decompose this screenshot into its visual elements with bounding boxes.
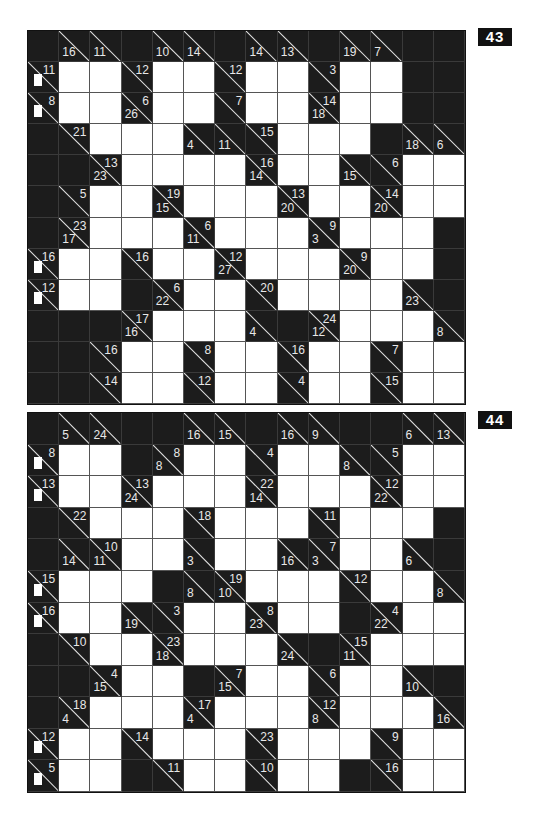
entry-cell[interactable] [90, 280, 121, 311]
entry-cell[interactable] [309, 373, 340, 404]
entry-cell[interactable] [340, 476, 371, 508]
entry-cell[interactable] [278, 155, 309, 186]
entry-cell[interactable] [215, 186, 246, 217]
entry-cell[interactable] [403, 760, 434, 792]
entry-cell[interactable] [59, 603, 90, 635]
entry-cell[interactable] [371, 280, 402, 311]
entry-cell[interactable] [90, 760, 121, 792]
entry-cell[interactable] [59, 476, 90, 508]
entry-cell[interactable] [122, 539, 153, 571]
entry-cell[interactable] [403, 445, 434, 477]
entry-cell[interactable] [278, 62, 309, 93]
entry-cell[interactable] [434, 186, 465, 217]
entry-cell[interactable] [153, 62, 184, 93]
entry-cell[interactable] [246, 218, 277, 249]
entry-cell[interactable] [90, 62, 121, 93]
entry-cell[interactable] [122, 697, 153, 729]
entry-cell[interactable] [246, 508, 277, 540]
entry-cell[interactable] [403, 476, 434, 508]
entry-cell[interactable] [215, 760, 246, 792]
entry-cell[interactable] [90, 124, 121, 155]
entry-cell[interactable] [309, 603, 340, 635]
entry-cell[interactable] [403, 311, 434, 342]
entry-cell[interactable] [184, 249, 215, 280]
entry-cell[interactable] [59, 571, 90, 603]
entry-cell[interactable] [340, 186, 371, 217]
entry-cell[interactable] [278, 476, 309, 508]
entry-cell[interactable] [309, 760, 340, 792]
entry-cell[interactable] [403, 508, 434, 540]
entry-cell[interactable] [246, 93, 277, 124]
entry-cell[interactable] [153, 539, 184, 571]
entry-cell[interactable] [215, 373, 246, 404]
entry-cell[interactable] [434, 476, 465, 508]
entry-cell[interactable] [246, 249, 277, 280]
entry-cell[interactable] [122, 218, 153, 249]
entry-cell[interactable] [122, 186, 153, 217]
entry-cell[interactable] [184, 280, 215, 311]
entry-cell[interactable] [340, 280, 371, 311]
entry-cell[interactable] [90, 634, 121, 666]
entry-cell[interactable] [278, 124, 309, 155]
entry-cell[interactable] [278, 666, 309, 698]
entry-cell[interactable] [434, 729, 465, 761]
entry-cell[interactable] [278, 93, 309, 124]
entry-cell[interactable] [184, 155, 215, 186]
entry-cell[interactable] [246, 666, 277, 698]
entry-cell[interactable] [59, 249, 90, 280]
entry-cell[interactable] [340, 62, 371, 93]
entry-cell[interactable] [246, 373, 277, 404]
entry-cell[interactable] [403, 342, 434, 373]
entry-cell[interactable] [246, 62, 277, 93]
entry-cell[interactable] [403, 571, 434, 603]
entry-cell[interactable] [278, 760, 309, 792]
entry-cell[interactable] [403, 155, 434, 186]
entry-cell[interactable] [122, 342, 153, 373]
entry-cell[interactable] [371, 93, 402, 124]
entry-cell[interactable] [215, 508, 246, 540]
entry-cell[interactable] [371, 508, 402, 540]
entry-cell[interactable] [184, 93, 215, 124]
entry-cell[interactable] [371, 571, 402, 603]
entry-cell[interactable] [153, 155, 184, 186]
entry-cell[interactable] [184, 311, 215, 342]
entry-cell[interactable] [184, 760, 215, 792]
entry-cell[interactable] [278, 280, 309, 311]
entry-cell[interactable] [215, 218, 246, 249]
entry-cell[interactable] [403, 697, 434, 729]
entry-cell[interactable] [153, 729, 184, 761]
entry-cell[interactable] [153, 342, 184, 373]
entry-cell[interactable] [403, 186, 434, 217]
entry-cell[interactable] [90, 729, 121, 761]
entry-cell[interactable] [371, 62, 402, 93]
entry-cell[interactable] [434, 603, 465, 635]
entry-cell[interactable] [403, 218, 434, 249]
entry-cell[interactable] [309, 124, 340, 155]
entry-cell[interactable] [59, 93, 90, 124]
entry-cell[interactable] [153, 218, 184, 249]
entry-cell[interactable] [153, 666, 184, 698]
entry-cell[interactable] [340, 539, 371, 571]
entry-cell[interactable] [246, 634, 277, 666]
entry-cell[interactable] [246, 571, 277, 603]
entry-cell[interactable] [371, 218, 402, 249]
entry-cell[interactable] [340, 729, 371, 761]
entry-cell[interactable] [434, 634, 465, 666]
entry-cell[interactable] [246, 342, 277, 373]
entry-cell[interactable] [278, 697, 309, 729]
entry-cell[interactable] [90, 508, 121, 540]
entry-cell[interactable] [215, 476, 246, 508]
entry-cell[interactable] [90, 218, 121, 249]
entry-cell[interactable] [309, 249, 340, 280]
entry-cell[interactable] [122, 373, 153, 404]
entry-cell[interactable] [278, 729, 309, 761]
entry-cell[interactable] [309, 445, 340, 477]
entry-cell[interactable] [153, 124, 184, 155]
entry-cell[interactable] [246, 697, 277, 729]
entry-cell[interactable] [278, 445, 309, 477]
entry-cell[interactable] [340, 697, 371, 729]
entry-cell[interactable] [371, 249, 402, 280]
entry-cell[interactable] [59, 62, 90, 93]
entry-cell[interactable] [309, 280, 340, 311]
entry-cell[interactable] [90, 249, 121, 280]
